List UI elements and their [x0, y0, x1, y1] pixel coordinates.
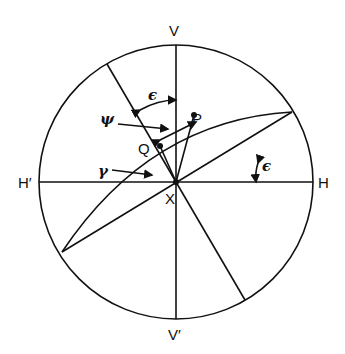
label-h: H [318, 174, 329, 191]
label-x: X [165, 190, 175, 207]
diagram: V V′ H H′ P Q X ψ γ ϵ ϵ [0, 0, 345, 354]
label-v-prime: V′ [168, 326, 181, 343]
label-p: P [192, 110, 202, 127]
label-v: V [169, 22, 179, 39]
label-gamma: γ [98, 162, 108, 180]
diagram-lines [0, 0, 345, 354]
label-q: Q [138, 140, 150, 157]
label-h-prime: H′ [18, 174, 32, 191]
label-psi: ψ [100, 110, 114, 128]
label-epsilon-top: ϵ [148, 86, 157, 104]
label-epsilon-right: ϵ [262, 157, 271, 175]
